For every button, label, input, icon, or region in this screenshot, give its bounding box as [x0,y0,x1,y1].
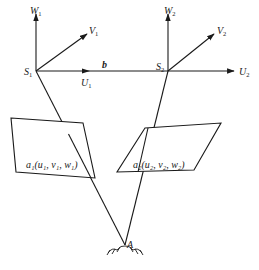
ground-hatch-icon [107,246,143,255]
label-u2: U2 [239,66,249,78]
label-w1: W1 [30,5,42,17]
label-u1: U1 [81,77,91,89]
label-image-point-a1: a₁(u₁, v₁, w₁) [26,159,78,171]
label-ground-point-a: A [126,239,134,250]
label-s2: S2 [156,61,164,73]
label-v2: V2 [217,25,226,37]
label-image-point-a2: a₂(u₂, v₂, w₂) [133,159,185,171]
v1-axis [36,34,87,71]
label-baseline-b: b [102,59,107,70]
v2-axis [168,34,214,71]
label-w2: W2 [164,5,176,17]
station-2-axes [168,14,234,71]
label-v1: V1 [89,25,98,37]
u1-arrow-icon [82,69,90,74]
photogrammetry-diagram: W1 V1 S1 U1 b W2 V2 S2 U2 a₁(u₁, v₁, w₁)… [0,0,259,270]
label-s1: S1 [24,66,32,78]
